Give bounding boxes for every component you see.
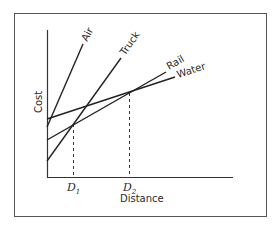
d1-label: D1 bbox=[66, 181, 80, 196]
truck-line bbox=[47, 58, 121, 161]
y-axis-label: Cost bbox=[33, 91, 44, 113]
cost-distance-diagram: Air Truck Rail Water Cost Distance D1 D2 bbox=[0, 0, 278, 228]
d2-label: D2 bbox=[122, 181, 137, 196]
x-axis-label: Distance bbox=[120, 193, 164, 204]
air-line bbox=[47, 44, 83, 127]
air-label: Air bbox=[79, 25, 96, 43]
rail-line bbox=[47, 72, 166, 140]
truck-label: Truck bbox=[117, 29, 142, 58]
